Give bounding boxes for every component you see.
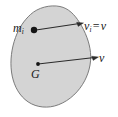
velocity-equation-subscript: i [89, 25, 91, 34]
particle-mass-subscript: i [22, 27, 24, 36]
mass-center-point-marker [36, 62, 40, 66]
particle-point-marker [31, 27, 37, 33]
rigid-body-velocity-figure: mi vi=v v G [0, 0, 118, 117]
velocity-equation-label: vi=v [84, 20, 106, 33]
particle-mass-base: m [13, 21, 22, 35]
velocity-equation-operator: = [93, 19, 100, 33]
mass-center-velocity-label: v [99, 52, 104, 64]
mass-center-label: G [31, 68, 40, 80]
velocity-equation-rhs: v [101, 19, 106, 33]
particle-mass-label: mi [13, 22, 24, 35]
mass-center-velocity-arrowhead [92, 56, 99, 60]
